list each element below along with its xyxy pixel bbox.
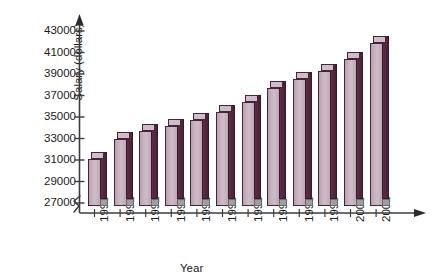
- x-axis-arrowhead: [414, 209, 426, 217]
- bar-chart: Salary (dollars) Year 270002900031000330…: [0, 0, 433, 279]
- axes-overlay: [0, 0, 433, 279]
- y-axis-arrowhead: [76, 14, 84, 25]
